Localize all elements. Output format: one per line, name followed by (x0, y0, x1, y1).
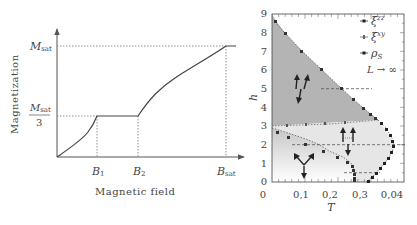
svg-text:0,1: 0,1 (293, 189, 309, 200)
svg-text:ξzz: ξzz (371, 14, 385, 28)
svg-text:ρS: ρS (370, 47, 382, 61)
y-tick-msat-third: Msat 3 (29, 102, 51, 128)
x-axis-label: Magnetic field (95, 186, 175, 197)
y-axis-label: Magnetization (9, 54, 20, 134)
legend-item-xi-xy: ξxy (360, 30, 386, 44)
x-tick-b2: B2 (132, 165, 146, 178)
svg-text:0,04: 0,04 (381, 189, 403, 200)
svg-text:8: 8 (261, 27, 267, 38)
phase-diagram-chart: 0 1 2 3 4 5 6 7 8 9 h 0 0,1 0,2 0,3 0,04… (247, 8, 405, 214)
svg-text:ξxy: ξxy (371, 30, 386, 44)
svg-text:Msat: Msat (29, 102, 51, 114)
figure: Msat Msat 3 Magnetization B1 B2 Bsat Mag… (0, 0, 417, 225)
x-tick-b1: B1 (91, 165, 105, 178)
legend-item-l-infinity: L → ∞ (366, 64, 397, 75)
svg-text:2: 2 (261, 139, 267, 150)
y-tick-msat: Msat (29, 40, 52, 53)
svg-text:0: 0 (260, 189, 266, 200)
magnetization-chart: Msat Msat 3 Magnetization B1 B2 Bsat Mag… (9, 29, 244, 197)
x-axis-label-t: T (327, 201, 336, 214)
svg-text:3: 3 (36, 117, 42, 128)
svg-text:9: 9 (261, 8, 267, 19)
legend-item-xi-zz: ξzz (360, 14, 385, 28)
svg-text:0: 0 (261, 176, 267, 187)
svg-text:3: 3 (261, 120, 267, 131)
svg-text:6: 6 (261, 64, 267, 75)
svg-text:1: 1 (261, 158, 267, 169)
legend: ξzz ξxy ρS L → ∞ (360, 14, 397, 75)
legend-item-rho-s: ρS (360, 47, 382, 61)
y-tick-labels: 0 1 2 3 4 5 6 7 8 9 (261, 8, 267, 187)
svg-text:0,3: 0,3 (352, 189, 368, 200)
svg-text:5: 5 (261, 83, 267, 94)
svg-text:7: 7 (261, 46, 267, 57)
magnetization-curve (57, 46, 236, 157)
svg-text:0,2: 0,2 (322, 189, 338, 200)
y-axis-label-h: h (247, 94, 260, 101)
x-tick-bsat: Bsat (216, 165, 236, 178)
x-tick-labels: 0 0,1 0,2 0,3 0,04 (260, 189, 403, 200)
svg-text:4: 4 (261, 102, 267, 113)
